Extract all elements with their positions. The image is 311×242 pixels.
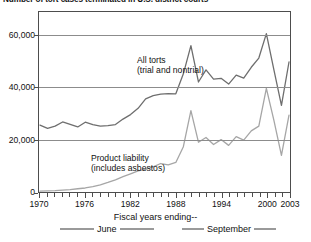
x-tick-mark-2000 xyxy=(267,193,268,198)
x-tick-mark-2002 xyxy=(282,193,283,197)
x-tick-label-1988: 1988 xyxy=(166,199,185,209)
x-tick-mark-1999 xyxy=(260,193,261,197)
x-tick-mark-1991 xyxy=(199,193,200,197)
x-tick-mark-1982 xyxy=(130,193,131,198)
legend-swatch-june xyxy=(60,228,94,230)
x-tick-mark-1972 xyxy=(54,193,55,197)
gridline-20000 xyxy=(39,140,290,141)
chart-title: Number of tort cases terminated in U.S. … xyxy=(3,0,208,5)
y-tick-mark-0 xyxy=(34,193,38,194)
series-annotation-product-liability: Product liability (includes asbestos) xyxy=(91,153,165,173)
legend-label-june: June xyxy=(94,224,120,234)
x-tick-mark-1992 xyxy=(206,193,207,197)
x-tick-mark-1974 xyxy=(69,193,70,197)
x-tick-mark-1976 xyxy=(85,193,86,198)
x-tick-mark-1989 xyxy=(184,193,185,197)
series-line-all-torts xyxy=(40,34,289,129)
legend-entry-june: June xyxy=(60,222,154,236)
series-annotation-all-torts-line2: (trial and nontrial) xyxy=(137,65,204,75)
x-tick-mark-1990 xyxy=(191,193,192,197)
x-tick-mark-1996 xyxy=(237,193,238,197)
legend-label-september: September xyxy=(204,224,254,234)
y-tick-label-40000: 40,000 xyxy=(9,83,35,92)
x-tick-mark-1987 xyxy=(168,193,169,197)
x-tick-mark-1970 xyxy=(39,193,40,198)
x-tick-mark-1977 xyxy=(92,193,93,197)
legend-swatch-june-trailing xyxy=(120,228,154,230)
x-tick-label-1994: 1994 xyxy=(212,199,231,209)
x-tick-mark-1981 xyxy=(123,193,124,197)
x-tick-mark-1971 xyxy=(47,193,48,197)
x-tick-label-1982: 1982 xyxy=(121,199,140,209)
gridline-60000 xyxy=(39,35,290,36)
chart-legend: June September xyxy=(0,222,311,236)
gridline-40000 xyxy=(39,87,290,88)
x-axis-title: Fiscal years ending-- xyxy=(0,212,311,222)
x-tick-mark-1973 xyxy=(62,193,63,197)
x-tick-mark-1988 xyxy=(176,193,177,198)
x-tick-mark-1993 xyxy=(214,193,215,197)
plot-area: All torts (trial and nontrial) Product l… xyxy=(38,11,291,193)
x-tick-mark-2003 xyxy=(290,193,291,198)
legend-entry-september: September xyxy=(182,222,276,236)
x-tick-label-1970: 1970 xyxy=(29,199,48,209)
legend-swatch-september-trailing xyxy=(254,228,276,230)
x-tick-label-2000: 2000 xyxy=(258,199,277,209)
series-annotation-product-liability-line1: Product liability xyxy=(91,153,165,163)
x-tick-mark-1980 xyxy=(115,193,116,197)
x-tick-mark-1985 xyxy=(153,193,154,197)
x-tick-mark-1978 xyxy=(100,193,101,197)
series-annotation-product-liability-line2: (includes asbestos) xyxy=(91,163,165,173)
x-tick-mark-1984 xyxy=(146,193,147,197)
x-tick-label-2003: 2003 xyxy=(280,199,299,209)
x-tick-mark-1979 xyxy=(108,193,109,197)
x-tick-mark-1994 xyxy=(222,193,223,198)
x-tick-mark-1975 xyxy=(77,193,78,197)
series-annotation-all-torts: All torts (trial and nontrial) xyxy=(137,55,204,75)
x-tick-mark-1995 xyxy=(229,193,230,197)
x-tick-mark-1997 xyxy=(244,193,245,197)
series-annotation-all-torts-line1: All torts xyxy=(137,55,204,65)
x-tick-mark-1983 xyxy=(138,193,139,197)
x-tick-label-1976: 1976 xyxy=(75,199,94,209)
x-tick-mark-2001 xyxy=(275,193,276,197)
y-tick-label-60000: 60,000 xyxy=(9,31,35,40)
legend-swatch-september xyxy=(182,228,204,230)
tort-cases-line-chart: Number of tort cases terminated in U.S. … xyxy=(0,0,311,242)
x-tick-mark-1986 xyxy=(161,193,162,197)
y-tick-label-20000: 20,000 xyxy=(9,136,35,145)
x-tick-mark-1998 xyxy=(252,193,253,197)
